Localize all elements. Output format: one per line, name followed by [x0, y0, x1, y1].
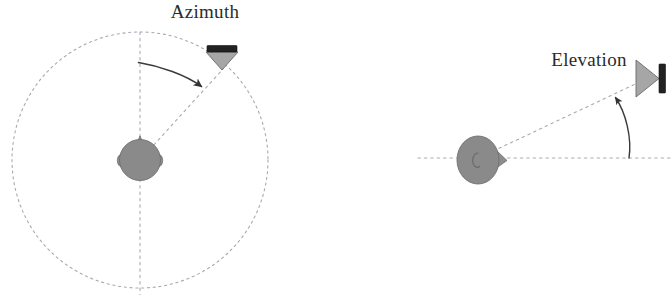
elevation-angle-arc [616, 98, 630, 159]
elevation-panel: Elevation [418, 49, 672, 184]
speaker-cone-icon [636, 60, 659, 97]
azimuth-angle-arc [139, 63, 202, 87]
figure-canvas: Azimuth Elevation [0, 0, 672, 295]
speaker-cone-icon [206, 52, 238, 70]
speaker-magnet-icon [207, 46, 237, 53]
azimuth-speaker-icon [206, 46, 238, 71]
elevation-label: Elevation [551, 49, 627, 70]
elevation-listener-head [457, 136, 507, 184]
speaker-magnet-icon [659, 64, 666, 93]
elevation-speaker-icon [636, 60, 666, 97]
head-ellipse-icon [457, 136, 499, 184]
head-circle-icon [120, 140, 161, 181]
azimuth-panel: Azimuth [12, 1, 268, 295]
azimuth-label: Azimuth [171, 1, 240, 22]
azimuth-elevation-diagram: Azimuth Elevation [0, 0, 672, 295]
